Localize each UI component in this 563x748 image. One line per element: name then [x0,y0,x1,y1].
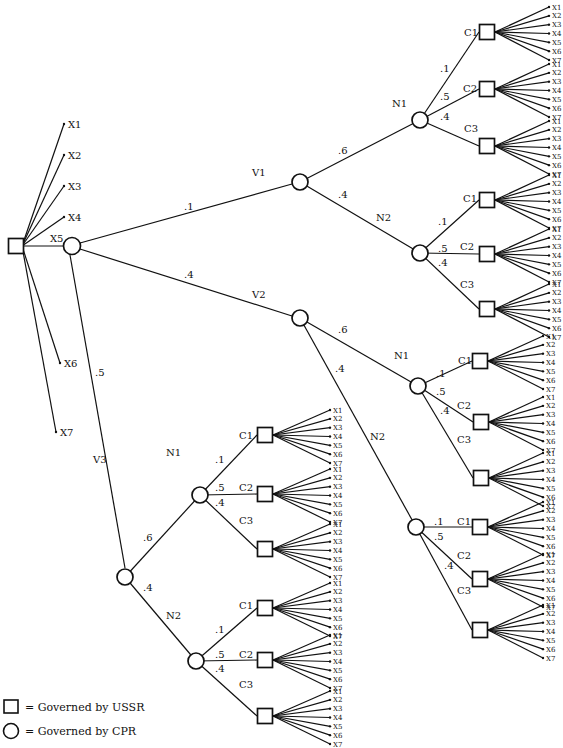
outcome-edge [273,592,330,608]
outcome-label: X3 [552,78,561,86]
outcome-edge [489,422,543,450]
arrow-dot-icon [329,453,331,455]
outcome-label: X3 [552,189,561,197]
outcome-edge [495,309,549,328]
arrow-dot-icon [548,89,550,91]
c-branch-label: C3 [457,434,471,445]
root-outcome-edge [22,246,56,432]
outcome-label: X6 [552,48,562,56]
arrow-dot-icon [548,272,550,274]
arrow-dot-icon [329,678,331,680]
c-branch-label: C2 [239,482,253,493]
outcome-label: X5 [546,586,555,594]
outcome-edge [495,293,549,309]
arrow-dot-icon [542,545,544,547]
ussr-square-node [258,653,273,668]
arrow-dot-icon [548,218,550,220]
outcome-edge [495,184,549,200]
cpr-circle-node [408,519,424,535]
arrow-dot-icon [542,361,544,363]
arrow-dot-icon [329,409,331,411]
arrow-dot-icon [542,396,544,398]
v-branch-prob: .1 [184,201,194,212]
outcome-label: X1 [552,281,561,289]
arrow-dot-icon [329,743,331,745]
outcome-label: X5 [333,556,342,564]
outcome-edge [488,579,543,607]
arrow-dot-icon [55,431,57,433]
outcome-edge [495,254,549,273]
arrow-dot-icon [542,452,544,454]
arrow-dot-icon [542,440,544,442]
outcome-label: X3 [546,467,555,475]
arrow-dot-icon [329,643,331,645]
arrow-dot-icon [548,6,550,8]
arrow-dot-icon [63,216,65,218]
outcome-label: X1 [546,394,555,402]
outcome-label: X4 [333,433,343,441]
arrow-dot-icon [542,510,544,512]
outcome-edge [489,462,543,478]
v-branch-prob: .4 [184,269,194,280]
outcome-label: X5 [546,637,555,645]
outcome-edge [495,73,549,89]
outcome-label: X4 [552,144,562,152]
c-branch-prob: .4 [215,663,225,674]
arrow-dot-icon [329,444,331,446]
outcome-label: X2 [546,458,555,466]
arrow-dot-icon [329,426,331,428]
outcome-label: X2 [552,289,561,297]
arrow-dot-icon [548,129,550,131]
arrow-dot-icon [329,716,331,718]
n-branch-prob: .6 [338,145,348,156]
root-outcome-label: X3 [68,181,81,192]
outcome-label: X1 [552,4,561,12]
arrow-dot-icon [542,413,544,415]
outcome-label: X6 [552,270,562,278]
arrow-dot-icon [329,567,331,569]
outcome-label: X6 [552,216,562,224]
c-branch-label: C1 [463,193,477,204]
outcome-label: X7 [546,386,555,394]
arrow-dot-icon [542,505,544,507]
arrow-dot-icon [548,164,550,166]
arrow-dot-icon [542,518,544,520]
ussr-square-node [258,709,273,724]
arrow-dot-icon [548,32,550,34]
root-outcome-label: X7 [60,427,73,438]
root-outcome-label: X1 [68,119,81,130]
outcome-edge [488,527,543,555]
outcome-edge [273,533,330,549]
c-branch-label: C3 [239,679,253,690]
outcome-edge [273,549,330,568]
outcome-label: X4 [552,30,562,38]
ussr-square-node [480,302,495,317]
c-branch-label: C3 [457,585,471,596]
arrow-dot-icon [542,487,544,489]
outcome-label: X3 [546,411,555,419]
c-branch-label: C2 [239,649,253,660]
c-branch-label: C2 [460,241,474,252]
outcome-edge [495,309,549,337]
root-outcome-label: X4 [68,212,81,223]
outcome-label: X5 [333,442,342,450]
outcome-label: X6 [333,676,343,684]
outcome-label: X1 [546,450,555,458]
arrow-dot-icon [542,478,544,480]
outcome-label: X4 [546,359,556,367]
cpr-circle-node [412,112,428,128]
outcome-label: X6 [333,624,343,632]
c-branch-label: C2 [463,83,477,94]
n-branch-prob: .4 [335,363,345,374]
cpr-circle-node [292,174,308,190]
c-branch-prob: .5 [436,386,446,397]
arrow-dot-icon [542,352,544,354]
arrow-dot-icon [542,379,544,381]
n-edge [300,120,420,182]
arrow-dot-icon [542,422,544,424]
outcome-edge [495,200,549,219]
root-outcome-edge [22,246,60,363]
v-edge [70,255,125,568]
arrow-dot-icon [548,174,550,176]
arrow-dot-icon [329,699,331,701]
